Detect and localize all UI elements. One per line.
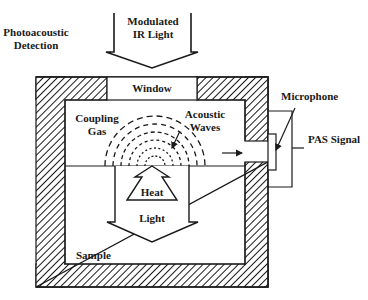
- ir-light-line1: Modulated: [118, 15, 188, 28]
- pas-signal-label: PAS Signal: [308, 133, 360, 146]
- acoustic-waves-line1: Acoustic: [180, 108, 230, 121]
- acoustic-waves-label: Acoustic Waves: [180, 108, 230, 134]
- light-label: Light: [130, 212, 174, 225]
- acoustic-waves-pointer: [172, 131, 180, 148]
- title-line2: Detection: [0, 39, 72, 52]
- coupling-gas-line1: Coupling: [72, 112, 122, 125]
- ir-light-line2: IR Light: [118, 28, 188, 41]
- window-label: Window: [107, 82, 197, 95]
- ir-light-label: Modulated IR Light: [118, 15, 188, 41]
- coupling-gas-line2: Gas: [72, 125, 122, 138]
- diagram-title: Photoacoustic Detection: [0, 26, 72, 52]
- coupling-gas-label: Coupling Gas: [72, 112, 122, 138]
- microphone-label: Microphone: [281, 90, 338, 103]
- acoustic-waves-line2: Waves: [180, 121, 230, 134]
- heat-label: Heat: [132, 186, 172, 199]
- title-line1: Photoacoustic: [0, 26, 72, 39]
- sample-label: Sample: [76, 249, 111, 262]
- microphone-element: [268, 134, 276, 170]
